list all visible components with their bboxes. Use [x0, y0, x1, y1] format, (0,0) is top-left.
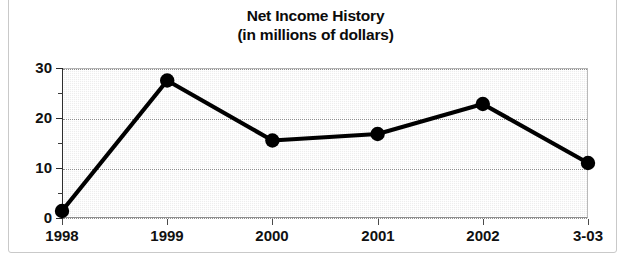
y-tick-30: [56, 68, 63, 69]
x-tick-1999: [167, 219, 168, 225]
y-minor-tick-25: [58, 93, 63, 94]
gridline-0: [63, 218, 587, 219]
x-axis-label-3-03: 3-03: [546, 228, 630, 244]
gridline-20: [63, 119, 587, 120]
line-chart: 30 20 10 0 1998 1999 2000 2001 2002 3-03: [0, 0, 631, 265]
y-axis-label-10: 10: [18, 161, 52, 175]
x-tick-2000: [272, 219, 273, 225]
y-axis-label-20: 20: [18, 111, 52, 125]
y-axis-label-30: 30: [18, 61, 52, 75]
y-minor-tick-15: [58, 143, 63, 144]
y-minor-tick-5: [58, 193, 63, 194]
x-tick-3-03: [588, 219, 589, 225]
x-axis-label-2000: 2000: [230, 228, 314, 244]
x-axis-label-1999: 1999: [125, 228, 209, 244]
x-tick-2002: [483, 219, 484, 225]
x-tick-1998: [62, 219, 63, 225]
plot-area: [62, 68, 588, 218]
x-axis-label-2002: 2002: [441, 228, 525, 244]
x-axis-label-1998: 1998: [20, 228, 104, 244]
x-tick-2001: [378, 219, 379, 225]
y-tick-20: [56, 118, 63, 119]
gridline-30: [63, 69, 587, 70]
y-tick-10: [56, 168, 63, 169]
y-axis-label-0: 0: [18, 211, 52, 225]
gridline-10: [63, 169, 587, 170]
chart-page: Net Income History (in millions of dolla…: [0, 0, 631, 265]
x-axis-label-2001: 2001: [336, 228, 420, 244]
